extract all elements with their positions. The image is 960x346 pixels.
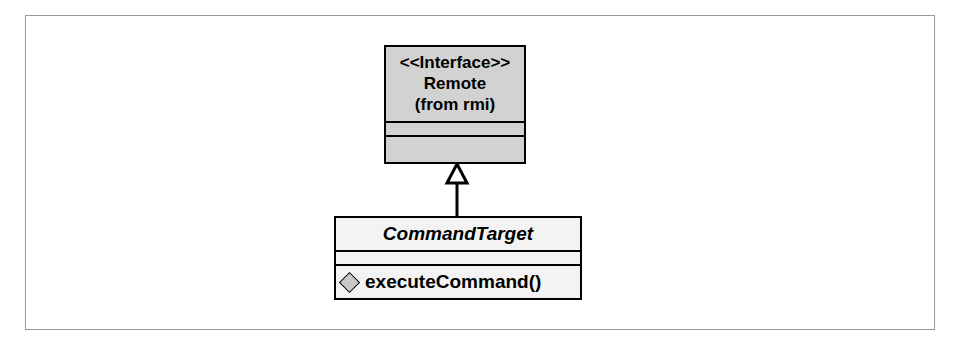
commandtarget-class-name: CommandTarget — [336, 218, 580, 250]
remote-class-name: Remote — [386, 73, 524, 94]
remote-operations-compartment — [386, 135, 524, 162]
generalization-hollow-triangle-icon — [447, 164, 467, 183]
commandtarget-operations-compartment: executeCommand() — [336, 264, 580, 298]
class-box-remote[interactable]: <<Interface>> Remote (from rmi) — [384, 45, 526, 164]
remote-package-label: (from rmi) — [386, 94, 524, 115]
class-box-commandtarget[interactable]: CommandTarget executeCommand() — [334, 216, 582, 300]
remote-stereotype: <<Interface>> — [386, 52, 524, 73]
remote-header-compartment: <<Interface>> Remote (from rmi) — [386, 47, 524, 121]
public-diamond-icon — [339, 271, 360, 292]
remote-attributes-compartment — [386, 121, 524, 135]
uml-diagram-canvas: <<Interface>> Remote (from rmi) CommandT… — [25, 15, 935, 330]
operation-execute-command: executeCommand() — [365, 271, 541, 293]
commandtarget-attributes-compartment — [336, 250, 580, 264]
